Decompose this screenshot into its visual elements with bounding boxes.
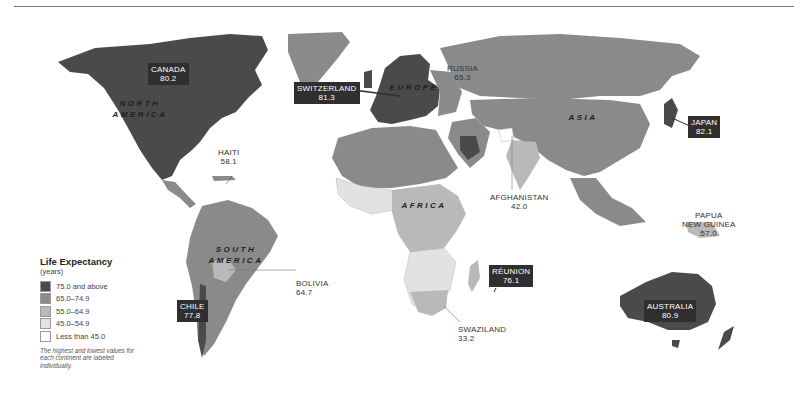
callout-russia: RUSSIA 65.3 bbox=[447, 64, 478, 82]
callout-switzerland: SWITZERLAND 81.3 bbox=[294, 82, 360, 104]
legend-item: 45.0–54.9 bbox=[40, 318, 150, 331]
region-central-america bbox=[162, 180, 196, 208]
callout-bolivia: BOLIVIA 64.7 bbox=[296, 279, 329, 297]
region-madagascar bbox=[468, 260, 480, 292]
continent-label-north-america: NORTH AMERICA bbox=[100, 98, 180, 120]
callout-reunion: RÉUNION 76.1 bbox=[489, 265, 533, 287]
continent-label-south-america: SOUTH AMERICA bbox=[196, 244, 276, 266]
legend-swatch bbox=[40, 331, 51, 342]
legend-item: 65.0–74.9 bbox=[40, 293, 150, 306]
region-asia bbox=[470, 98, 650, 176]
region-india bbox=[506, 140, 540, 190]
legend-item: 75.0 and above bbox=[40, 280, 150, 293]
legend-note: The highest and lowest values for each c… bbox=[40, 347, 140, 370]
legend-subtitle: (years) bbox=[40, 267, 150, 276]
region-south-africa bbox=[410, 290, 448, 316]
callout-afghanistan: AFGHANISTAN 42.0 bbox=[490, 193, 549, 211]
region-north-africa bbox=[332, 126, 458, 188]
region-caribbean bbox=[212, 176, 236, 181]
callout-haiti: HAITI 58.1 bbox=[218, 148, 239, 166]
legend-item: Less than 45.0 bbox=[40, 330, 150, 343]
legend-item: 55.0–64.9 bbox=[40, 305, 150, 318]
continent-label-africa: AFRICA bbox=[394, 200, 454, 211]
callout-japan: JAPAN 82.1 bbox=[688, 116, 720, 138]
callout-chile: CHILE 77.8 bbox=[177, 300, 208, 322]
continent-label-europe: EUROPE bbox=[384, 82, 444, 93]
legend-title: Life Expectancy bbox=[40, 256, 150, 267]
legend: Life Expectancy (years) 75.0 and above 6… bbox=[40, 256, 150, 369]
region-afghanistan bbox=[498, 128, 514, 142]
region-japan bbox=[664, 98, 678, 128]
legend-swatch bbox=[40, 318, 51, 329]
region-central-africa bbox=[392, 184, 466, 256]
region-russia bbox=[440, 34, 700, 100]
legend-swatch bbox=[40, 293, 51, 304]
callout-swaziland: SWAZILAND 33.2 bbox=[458, 325, 506, 343]
legend-swatch bbox=[40, 306, 51, 317]
region-uk bbox=[364, 70, 372, 88]
region-se-asia bbox=[570, 178, 646, 226]
legend-swatch bbox=[40, 281, 51, 292]
continent-label-asia: ASIA bbox=[558, 112, 608, 123]
callout-australia: AUSTRALIA 80.9 bbox=[644, 300, 696, 322]
region-tasmania bbox=[672, 340, 680, 348]
region-nz bbox=[718, 326, 734, 350]
callout-papua-new-guinea: PAPUA NEW GUINEA 57.0 bbox=[682, 211, 736, 238]
callout-canada: CANADA 80.2 bbox=[148, 63, 189, 85]
